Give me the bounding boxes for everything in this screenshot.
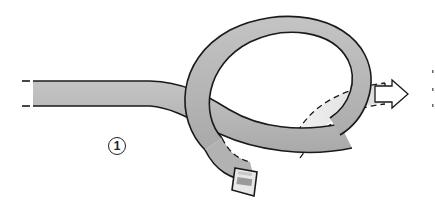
step-number-badge: 1 [108, 137, 126, 155]
rope-working-end [205, 138, 257, 196]
knot-illustration [0, 0, 435, 205]
knot-diagram: 1 [0, 0, 435, 205]
edge-marks [432, 70, 434, 107]
step-number: 1 [114, 139, 121, 153]
